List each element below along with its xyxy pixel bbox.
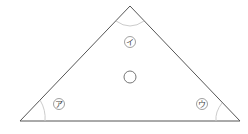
label-i: イ xyxy=(125,37,136,48)
svg-text:イ: イ xyxy=(126,38,134,47)
label-u: ウ xyxy=(197,99,208,110)
right-angle-arc xyxy=(216,103,222,121)
apex-angle-arc xyxy=(116,21,144,26)
label-a: ア xyxy=(54,99,65,110)
svg-text:ア: ア xyxy=(55,100,63,109)
triangle-diagram: ア イ ウ xyxy=(0,0,248,134)
svg-text:ウ: ウ xyxy=(198,100,206,109)
left-angle-arc xyxy=(40,100,45,121)
center-circle-marker xyxy=(124,71,136,83)
